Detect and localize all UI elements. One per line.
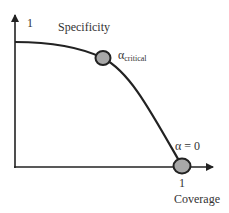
alpha-zero-label: α = 0 — [175, 139, 200, 153]
x-axis-max-tick: 1 — [179, 176, 185, 190]
coverage-specificity-diagram: 1 Specificity αcritical α = 0 1 Coverage — [0, 0, 229, 213]
alpha-critical-label: αcritical — [118, 48, 147, 63]
y-axis-label: Specificity — [58, 20, 110, 34]
x-axis-label: Coverage — [174, 192, 220, 206]
alpha-zero-marker — [174, 159, 191, 174]
alpha-critical-marker — [96, 51, 111, 65]
y-axis-max-tick: 1 — [27, 16, 33, 30]
